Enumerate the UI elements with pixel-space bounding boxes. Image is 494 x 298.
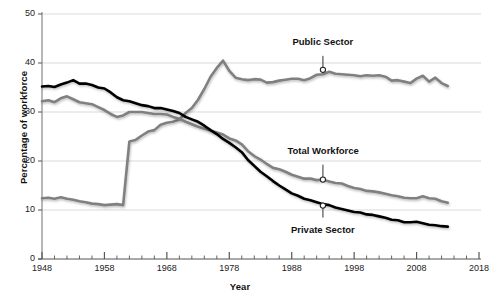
y-tick-label: 30 [13,106,35,116]
x-tick-label: 1988 [272,263,312,273]
x-tick-label: 1958 [84,263,124,273]
y-tick-label: 40 [13,57,35,67]
y-tick-label: 50 [13,8,35,18]
annotation-marker [320,67,325,72]
x-tick-label: 1998 [334,263,374,273]
data-series [42,61,448,227]
y-tick-label: 20 [13,155,35,165]
annotation-marker [320,203,325,208]
series-label-public-sector: Public Sector [292,36,353,47]
series-label-private-sector: Private Sector [291,224,355,235]
x-tick-label: 2008 [397,263,437,273]
x-tick-label: 1978 [209,263,249,273]
y-axis-title: Percentage of workforce [18,53,29,203]
series-label-total-workforce: Total Workforce [287,145,358,156]
x-tick-label: 1948 [22,263,62,273]
x-axis-title: Year [200,281,280,292]
annotation-marker [320,177,325,182]
series-line-public-sector [42,61,448,206]
annotation-leaders [320,56,325,218]
y-tick-label: 0 [13,253,35,263]
x-tick-label: 2018 [459,263,494,273]
x-tick-label: 1968 [147,263,187,273]
y-tick-label: 10 [13,204,35,214]
